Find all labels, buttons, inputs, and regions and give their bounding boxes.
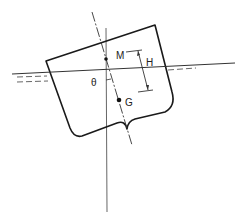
hull-outline [46, 25, 173, 136]
water-dash-left-1 [17, 76, 47, 77]
metacenter-label: M [116, 50, 124, 61]
h-extension-top [126, 50, 142, 52]
water-dash-right [168, 68, 196, 70]
center-of-gravity-point [117, 98, 122, 103]
heel-angle-arc [106, 79, 111, 80]
stability-diagram: M H θ G [0, 0, 250, 220]
metacenter-point [104, 57, 108, 61]
waterline [12, 63, 235, 74]
center-of-gravity-label: G [125, 97, 133, 108]
h-extension-bottom [138, 90, 153, 92]
heel-angle-label: θ [91, 77, 97, 88]
water-dash-left-2 [17, 81, 48, 82]
vertical-reference-line [106, 28, 107, 212]
metacentric-height-label: H [146, 57, 153, 68]
